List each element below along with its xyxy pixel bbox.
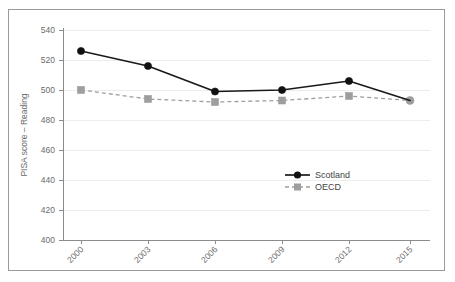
pisa-reading-line-chart: 540 520 500 480 460 440 420 400 PISA sco… <box>0 0 455 282</box>
oecd-point-2000 <box>78 87 85 94</box>
oecd-point-2006 <box>212 99 219 106</box>
gridlines <box>63 30 430 210</box>
y-tick-label-480: 480 <box>41 115 55 125</box>
y-tick-label-440: 440 <box>41 175 55 185</box>
x-tick-label-2012: 2012 <box>333 244 354 265</box>
chart-figure: 540 520 500 480 460 440 420 400 PISA sco… <box>0 0 455 282</box>
scotland-line <box>81 51 410 101</box>
scotland-point-2009 <box>278 86 285 93</box>
x-axis-ticks: 2000 2003 2006 2009 2012 2015 <box>65 240 415 265</box>
y-tick-label-500: 500 <box>41 85 55 95</box>
series-oecd <box>78 87 415 106</box>
legend-entry-oecd: OECD <box>285 182 342 192</box>
y-tick-label-520: 520 <box>41 55 55 65</box>
legend-label-oecd: OECD <box>315 182 342 192</box>
x-tick-label-2015: 2015 <box>394 244 415 265</box>
y-tick-label-540: 540 <box>41 25 55 35</box>
legend-entry-scotland: Scotland <box>285 170 350 180</box>
oecd-point-2012 <box>346 93 353 100</box>
oecd-line <box>81 90 410 102</box>
legend-label-scotland: Scotland <box>315 170 350 180</box>
x-tick-label-2009: 2009 <box>266 244 287 265</box>
scotland-point-2000 <box>77 47 84 54</box>
series-scotland <box>77 47 410 100</box>
y-tick-label-420: 420 <box>41 205 55 215</box>
y-axis-title: PISA score – Reading <box>19 93 29 176</box>
x-tick-label-2003: 2003 <box>132 244 153 265</box>
legend-swatch-oecd-marker <box>294 184 301 191</box>
scotland-point-2006 <box>211 88 218 95</box>
legend-swatch-scotland-marker <box>294 171 301 178</box>
scotland-point-2012 <box>345 77 352 84</box>
x-tick-label-2000: 2000 <box>65 244 86 265</box>
oecd-point-2003 <box>145 96 152 103</box>
y-axis-ticks: 540 520 500 480 460 440 420 400 <box>41 25 63 245</box>
oecd-point-2009 <box>279 97 286 104</box>
scotland-point-2003 <box>144 62 151 69</box>
chart-legend: Scotland OECD <box>285 170 350 192</box>
x-tick-label-2006: 2006 <box>199 244 220 265</box>
y-tick-label-400: 400 <box>41 235 55 245</box>
y-tick-label-460: 460 <box>41 145 55 155</box>
